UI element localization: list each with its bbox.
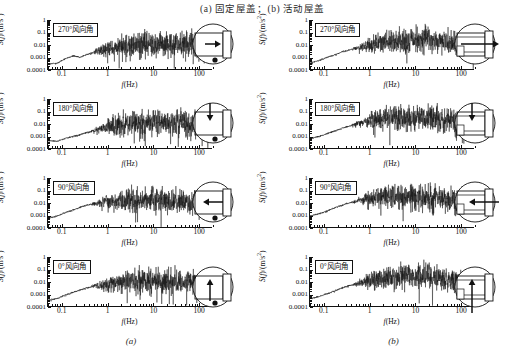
x-tick-label: 10 (412, 149, 420, 157)
x-tick-label: 0.1 (319, 70, 328, 78)
spectrum-panel-a-180: 10.10.010.0010.0001 0.1110100 S(f)/(m/s2… (0, 93, 262, 172)
x-tick-label: 1 (368, 228, 372, 236)
y-tick-major (310, 70, 313, 71)
y-axis-title: S(f)/(m/s2) (256, 250, 267, 282)
y-tick-label: 0.001 (30, 133, 46, 140)
y-tick-label: 1 (305, 175, 309, 182)
y-tick-label: 0.0001 (27, 225, 46, 232)
y-tick-label: 0.1 (37, 29, 46, 36)
y-tick-label: 0.001 (292, 291, 308, 298)
stadium-inset-down-arrow (183, 99, 241, 151)
x-axis-title: f(Hz) (47, 80, 212, 89)
x-tick-label: 1 (106, 149, 110, 157)
y-tick-label: 1 (43, 17, 47, 24)
x-tick-label: 1 (368, 149, 372, 157)
y-tick-label: 0.01 (34, 200, 46, 207)
y-tick-label: 1 (305, 254, 309, 261)
y-tick-label: 0.01 (34, 279, 46, 286)
y-tick-label: 0.01 (34, 121, 46, 128)
y-tick-label: 0.0001 (27, 146, 46, 153)
y-tick-label: 0.1 (37, 108, 46, 115)
figure-column-a: 10.10.010.0010.0001 0.1110100 S(f)/(m/s2… (0, 14, 262, 336)
x-tick-label: 1 (106, 228, 110, 236)
x-tick-label: 1 (368, 307, 372, 315)
x-tick-label: 0.1 (319, 228, 328, 236)
y-tick-label: 0.1 (299, 266, 308, 273)
spectrum-panel-b-90: 10.10.010.0010.0001 0.1110100 S(f)/(m/s2… (262, 172, 524, 251)
x-tick-label: 0.1 (57, 149, 66, 157)
wind-direction-label: 270°风向角 (315, 23, 360, 37)
spectrum-panel-b-0: 10.10.010.0010.0001 0.1110100 S(f)/(m/s2… (262, 251, 524, 330)
y-tick-label: 0.0001 (289, 67, 308, 74)
y-tick-label: 0.1 (299, 187, 308, 194)
y-tick-label: 0.001 (30, 212, 46, 219)
y-tick-label: 0.01 (296, 121, 308, 128)
caption-a: (a) (0, 336, 262, 346)
y-tick-major (310, 149, 313, 150)
y-tick-label: 0.01 (296, 200, 308, 207)
x-tick-label: 0.1 (57, 307, 66, 315)
y-axis-title: S(f)/(m/s2) (0, 171, 5, 203)
y-tick-label: 0.001 (292, 133, 308, 140)
wind-direction-label: 180°风向角 (53, 102, 98, 116)
wind-direction-label: 0°风向角 (53, 260, 91, 274)
caption-b: (b) (262, 336, 525, 346)
x-tick-label: 0.1 (319, 307, 328, 315)
y-axis-title: S(f)/(m/s2) (256, 92, 267, 124)
y-tick-label: 0.0001 (27, 67, 46, 74)
y-axis-title: S(f)/(m/s2) (256, 13, 267, 45)
stadium-inset-left-arrow (183, 178, 241, 230)
x-tick-label: 1 (106, 70, 110, 78)
figure-container: (a) 固定屋盖；(b) 活动屋盖 10.10.010.0010.0001 0.… (0, 0, 525, 353)
spectrum-panel-a-90: 10.10.010.0010.0001 0.1110100 S(f)/(m/s2… (0, 172, 262, 251)
y-tick-label: 0.1 (37, 187, 46, 194)
y-axis-title: S(f)/(m/s2) (0, 250, 5, 282)
spectrum-panel-b-270: 10.10.010.0010.0001 0.1110100 S(f)/(m/s2… (262, 14, 524, 93)
y-tick-label: 0.0001 (289, 146, 308, 153)
y-tick-label: 1 (43, 175, 47, 182)
x-tick-label: 0.1 (319, 149, 328, 157)
y-tick-label: 0.0001 (289, 304, 308, 311)
x-axis-title: f(Hz) (309, 80, 474, 89)
stadium-inset-right-arrow (183, 20, 241, 72)
y-axis-title: S(f)/(m/s2) (256, 171, 267, 203)
y-tick-label: 1 (305, 96, 309, 103)
y-tick-major (48, 307, 51, 308)
y-tick-label: 0.001 (292, 54, 308, 61)
x-tick-label: 10 (412, 70, 420, 78)
wind-direction-label: 270°风向角 (53, 23, 98, 37)
y-tick-major (310, 307, 313, 308)
figure-column-b: 10.10.010.0010.0001 0.1110100 S(f)/(m/s2… (262, 14, 524, 336)
x-tick-label: 10 (150, 228, 158, 236)
y-tick-label: 0.001 (292, 212, 308, 219)
x-axis-title: f(Hz) (309, 317, 474, 326)
spectrum-panel-a-0: 10.10.010.0010.0001 0.1110100 S(f)/(m/s2… (0, 251, 262, 330)
y-tick-major (48, 228, 51, 229)
x-axis-title: f(Hz) (47, 317, 212, 326)
x-axis-title: f(Hz) (47, 159, 212, 168)
x-tick-label: 10 (150, 307, 158, 315)
wind-direction-label: 180°风向角 (315, 102, 360, 116)
x-tick-label: 10 (412, 307, 420, 315)
wind-direction-label: 90°风向角 (315, 181, 357, 195)
y-tick-label: 0.1 (299, 29, 308, 36)
x-tick-label: 10 (150, 149, 158, 157)
y-tick-major (48, 70, 51, 71)
y-tick-label: 0.0001 (289, 225, 308, 232)
y-tick-label: 0.01 (296, 279, 308, 286)
y-tick-label: 1 (43, 254, 47, 261)
y-axis-title: S(f)/(m/s2) (0, 13, 5, 45)
y-tick-label: 1 (43, 96, 47, 103)
y-tick-label: 0.01 (34, 42, 46, 49)
stadium-inset-down-arrow (445, 99, 503, 151)
y-tick-major (310, 228, 313, 229)
x-tick-label: 0.1 (57, 228, 66, 236)
y-tick-major (48, 149, 51, 150)
x-tick-label: 10 (150, 70, 158, 78)
x-axis-title: f(Hz) (47, 238, 212, 247)
x-tick-label: 1 (368, 70, 372, 78)
stadium-inset-left-arrow (445, 178, 503, 230)
y-tick-label: 0.001 (30, 54, 46, 61)
spectrum-panel-a-270: 10.10.010.0010.0001 0.1110100 S(f)/(m/s2… (0, 14, 262, 93)
y-tick-label: 1 (305, 17, 309, 24)
